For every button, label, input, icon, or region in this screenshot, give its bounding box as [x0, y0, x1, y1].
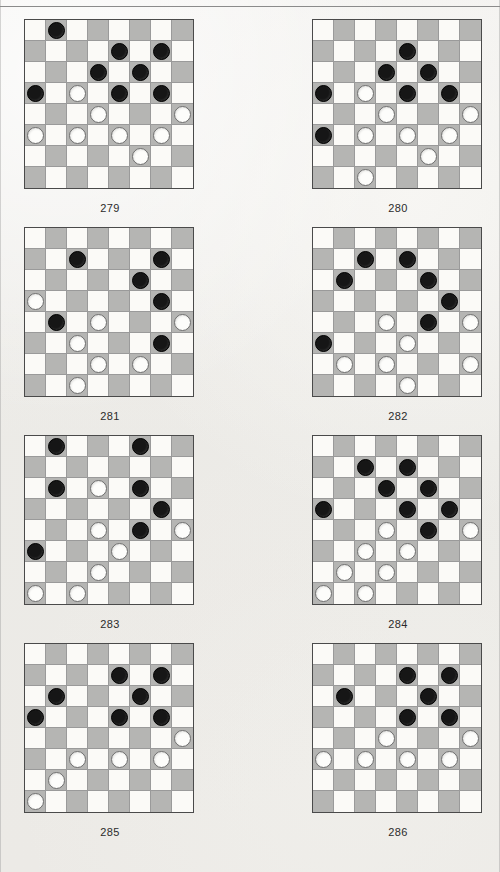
board-square[interactable]: [439, 541, 460, 562]
board-square[interactable]: [334, 749, 355, 770]
black-piece[interactable]: [420, 522, 437, 539]
board-square[interactable]: [25, 125, 46, 146]
board-square[interactable]: [439, 249, 460, 270]
board-square[interactable]: [151, 83, 172, 104]
board-square[interactable]: [334, 62, 355, 83]
board-square[interactable]: [46, 333, 67, 354]
board-square[interactable]: [67, 104, 88, 125]
board-square[interactable]: [151, 749, 172, 770]
board-square[interactable]: [130, 228, 151, 249]
board-square[interactable]: [67, 270, 88, 291]
board-square[interactable]: [313, 749, 334, 770]
board-square[interactable]: [334, 125, 355, 146]
white-piece[interactable]: [357, 751, 374, 768]
board-square[interactable]: [460, 541, 481, 562]
black-piece[interactable]: [441, 293, 458, 310]
board-square[interactable]: [172, 167, 193, 188]
board-square[interactable]: [334, 228, 355, 249]
white-piece[interactable]: [357, 85, 374, 102]
board-square[interactable]: [334, 354, 355, 375]
board-square[interactable]: [376, 83, 397, 104]
board-square[interactable]: [25, 41, 46, 62]
board-square[interactable]: [109, 146, 130, 167]
board-square[interactable]: [397, 312, 418, 333]
board-square[interactable]: [418, 499, 439, 520]
board-square[interactable]: [334, 478, 355, 499]
white-piece[interactable]: [111, 543, 128, 560]
board-square[interactable]: [460, 146, 481, 167]
white-piece[interactable]: [378, 730, 395, 747]
board-square[interactable]: [109, 478, 130, 499]
board-square[interactable]: [418, 333, 439, 354]
board-square[interactable]: [88, 520, 109, 541]
board-square[interactable]: [355, 770, 376, 791]
board-square[interactable]: [130, 541, 151, 562]
black-piece[interactable]: [132, 688, 149, 705]
board-square[interactable]: [313, 312, 334, 333]
board-square[interactable]: [130, 146, 151, 167]
board-square[interactable]: [376, 478, 397, 499]
black-piece[interactable]: [111, 667, 128, 684]
board-square[interactable]: [397, 62, 418, 83]
board-square[interactable]: [130, 686, 151, 707]
board-square[interactable]: [25, 291, 46, 312]
black-piece[interactable]: [48, 22, 65, 39]
board-square[interactable]: [439, 770, 460, 791]
board-square[interactable]: [460, 83, 481, 104]
board-square[interactable]: [355, 499, 376, 520]
board-square[interactable]: [88, 770, 109, 791]
board-square[interactable]: [376, 749, 397, 770]
board-square[interactable]: [376, 146, 397, 167]
board-square[interactable]: [109, 791, 130, 812]
board-square[interactable]: [151, 707, 172, 728]
board-square[interactable]: [151, 791, 172, 812]
board-square[interactable]: [46, 125, 67, 146]
board-square[interactable]: [460, 291, 481, 312]
board-square[interactable]: [397, 665, 418, 686]
white-piece[interactable]: [111, 751, 128, 768]
board-square[interactable]: [88, 665, 109, 686]
board-square[interactable]: [109, 104, 130, 125]
board-square[interactable]: [439, 478, 460, 499]
board-square[interactable]: [439, 62, 460, 83]
board-square[interactable]: [313, 41, 334, 62]
white-piece[interactable]: [90, 314, 107, 331]
white-piece[interactable]: [357, 169, 374, 186]
board-square[interactable]: [418, 707, 439, 728]
board-square[interactable]: [334, 562, 355, 583]
board-square[interactable]: [418, 686, 439, 707]
board-square[interactable]: [313, 707, 334, 728]
board-square[interactable]: [172, 478, 193, 499]
board-square[interactable]: [460, 312, 481, 333]
board-square[interactable]: [376, 707, 397, 728]
board-square[interactable]: [334, 20, 355, 41]
board-square[interactable]: [25, 686, 46, 707]
board-square[interactable]: [355, 167, 376, 188]
board-square[interactable]: [418, 291, 439, 312]
board-square[interactable]: [130, 354, 151, 375]
black-piece[interactable]: [420, 480, 437, 497]
board-square[interactable]: [130, 104, 151, 125]
black-piece[interactable]: [153, 85, 170, 102]
board-square[interactable]: [46, 146, 67, 167]
board-square[interactable]: [418, 41, 439, 62]
board-square[interactable]: [130, 291, 151, 312]
board-square[interactable]: [334, 665, 355, 686]
board-square[interactable]: [88, 749, 109, 770]
board-square[interactable]: [418, 749, 439, 770]
board-square[interactable]: [25, 354, 46, 375]
white-piece[interactable]: [90, 356, 107, 373]
black-piece[interactable]: [153, 43, 170, 60]
board-square[interactable]: [334, 146, 355, 167]
board-square[interactable]: [46, 20, 67, 41]
board-square[interactable]: [130, 770, 151, 791]
board-square[interactable]: [313, 478, 334, 499]
board-square[interactable]: [376, 125, 397, 146]
board-square[interactable]: [130, 583, 151, 604]
board-square[interactable]: [67, 312, 88, 333]
board-square[interactable]: [334, 83, 355, 104]
board-square[interactable]: [67, 728, 88, 749]
white-piece[interactable]: [357, 585, 374, 602]
board-square[interactable]: [25, 436, 46, 457]
white-piece[interactable]: [153, 127, 170, 144]
